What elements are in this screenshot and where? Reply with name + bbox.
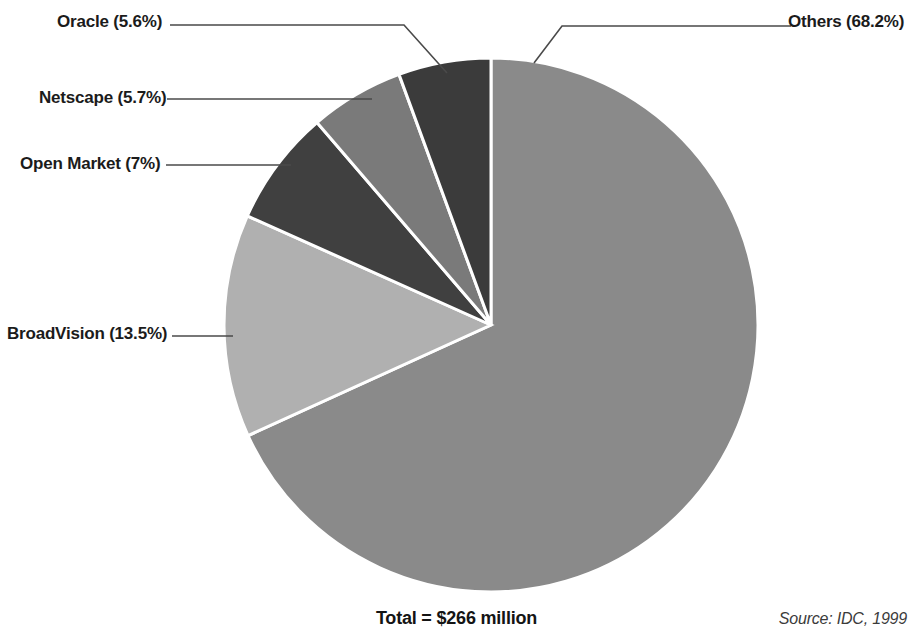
leader-line-oracle: [170, 25, 447, 73]
slice-label-netscape: Netscape (5.7%): [39, 88, 166, 108]
chart-source-note: Source: IDC, 1999: [779, 610, 907, 628]
chart-canvas: Oracle (5.6%) Netscape (5.7%) Open Marke…: [0, 0, 913, 633]
slice-label-broadvision: BroadVision (13.5%): [7, 324, 167, 344]
slice-label-oracle: Oracle (5.6%): [57, 12, 162, 32]
slice-label-open-market: Open Market (7%): [20, 154, 160, 174]
slice-label-others: Others (68.2%): [788, 12, 904, 32]
chart-total-label: Total = $266 million: [0, 608, 913, 629]
leader-line-others: [534, 26, 791, 63]
pie-slices: [224, 58, 758, 592]
